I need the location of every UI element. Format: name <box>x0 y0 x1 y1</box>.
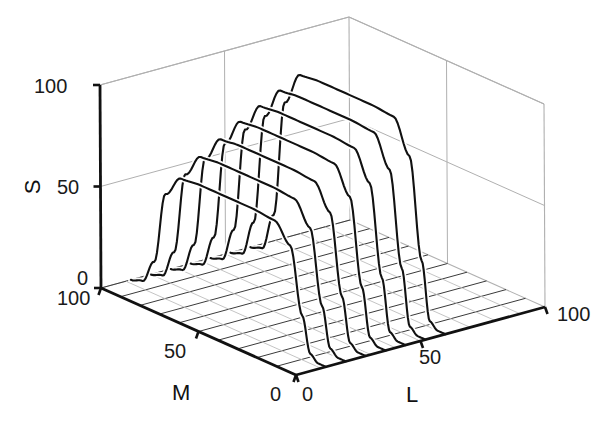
tick-label-s-50: 50 <box>57 177 79 197</box>
plot-canvas <box>0 0 614 428</box>
tick-label-s-100: 100 <box>34 76 67 96</box>
axis-title-l: L <box>406 384 418 406</box>
box-frame-front <box>100 85 545 375</box>
tick-mark-l-100 <box>545 307 548 314</box>
tick-label-m-50: 50 <box>164 341 186 361</box>
floor-gridline-l-10 <box>126 281 321 368</box>
tick-label-s-0: 0 <box>77 268 88 288</box>
figure-3d-line-plot: 100 50 0 S 100 50 0 M 0 50 100 L <box>0 0 614 428</box>
tick-label-l-0: 0 <box>302 384 313 404</box>
tick-label-l-100: 100 <box>557 304 590 324</box>
tick-mark-l-0 <box>296 375 299 382</box>
wall-gridline-m-50 <box>447 61 448 264</box>
axis-title-s: S <box>22 180 44 195</box>
tick-label-l-50: 50 <box>419 347 441 367</box>
tick-label-m-100: 100 <box>57 288 90 308</box>
axis-title-m: M <box>172 382 190 404</box>
tick-mark-m-50 <box>196 332 199 339</box>
tick-label-m-0: 0 <box>270 384 281 404</box>
